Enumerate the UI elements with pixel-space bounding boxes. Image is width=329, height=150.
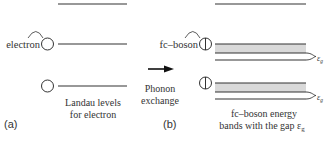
gap-symbol-upper: εg: [317, 54, 323, 64]
electron-pointer-arc: [28, 32, 43, 39]
panel-a-caption-line2: for electron: [70, 109, 116, 120]
electron-circle-lower: [42, 80, 54, 92]
panel-b-caption-line1: fc–boson energy: [231, 108, 297, 119]
fc-boson-pointer-arc: [185, 32, 200, 39]
panel-a-caption-line1: Landau levels: [65, 97, 121, 108]
energy-band-lower: εg: [215, 83, 323, 103]
arrow-label-line1: Phonon: [145, 83, 176, 94]
energy-band-upper: εg: [215, 44, 323, 64]
band-fill-lower: [215, 83, 306, 92]
panel-b-label: (b): [163, 118, 176, 130]
arrow-head-icon: [164, 66, 174, 73]
panel-a-label: (a): [4, 118, 17, 130]
electron-label: electron: [6, 39, 41, 50]
phonon-exchange-arrow: Phonon exchange: [141, 66, 179, 107]
fc-boson-label: fc–boson: [160, 39, 199, 50]
gap-bracket-lower: [306, 92, 316, 99]
diagram: electron Landau levels for electron (a) …: [0, 0, 329, 150]
panel-a: electron Landau levels for electron (a): [4, 4, 127, 130]
band-fill-upper: [215, 44, 306, 53]
electron-circle-upper: [42, 38, 54, 50]
panel-b-caption-line2: bands with the gap εg: [219, 120, 305, 133]
arrow-label-line2: exchange: [141, 95, 179, 106]
fc-boson-lower: [200, 77, 212, 89]
fc-boson-upper: [200, 38, 212, 50]
gap-symbol-lower: εg: [317, 93, 323, 103]
panel-b: εg εg fc–boson fc–boson energy bands wit…: [160, 4, 324, 133]
gap-bracket-upper: [306, 53, 316, 60]
